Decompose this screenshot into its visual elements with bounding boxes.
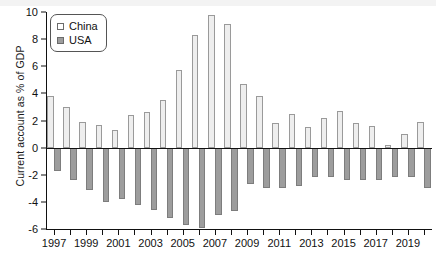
y-axis-tick — [41, 120, 46, 121]
x-axis-tick — [344, 230, 345, 235]
y-axis-tick-label: 0 — [14, 142, 38, 154]
x-axis-tick — [54, 230, 55, 235]
x-axis-tick-label: 2011 — [267, 237, 291, 249]
y-axis-tick-label: 6 — [14, 60, 38, 72]
x-axis-tick-label: 2009 — [235, 237, 259, 249]
x-axis-tick — [295, 230, 296, 235]
x-axis-tick — [311, 230, 312, 235]
bar-china — [144, 112, 150, 147]
x-axis-tick-label: 2003 — [138, 237, 162, 249]
x-axis-tick — [408, 230, 409, 235]
bar-usa — [135, 148, 141, 205]
bar-usa — [119, 148, 125, 200]
x-axis-tick — [215, 230, 216, 235]
y-axis-tick — [41, 39, 46, 40]
bar-usa — [215, 148, 221, 216]
y-axis-tick — [41, 93, 46, 94]
x-axis-tick-label: 2015 — [331, 237, 355, 249]
x-axis-tick-label: 2005 — [170, 237, 194, 249]
x-axis-tick — [199, 230, 200, 235]
bar-china — [128, 115, 134, 148]
x-axis-tick — [183, 230, 184, 235]
bar-china — [353, 123, 359, 147]
x-axis-tick — [118, 230, 119, 235]
bar-usa — [263, 148, 269, 189]
top-edge-band — [0, 0, 436, 6]
bar-usa — [392, 148, 398, 178]
x-axis-tick-label: 1999 — [74, 237, 98, 249]
usa-swatch-icon — [57, 37, 64, 44]
bar-china — [112, 130, 118, 148]
bar-china — [240, 84, 246, 148]
x-axis-tick — [151, 230, 152, 235]
y-axis-tick — [41, 66, 46, 67]
bar-usa — [344, 148, 350, 181]
bar-china — [176, 70, 182, 147]
x-axis-tick — [360, 230, 361, 235]
x-axis-tick — [263, 230, 264, 235]
bar-china — [337, 111, 343, 148]
bar-usa — [167, 148, 173, 219]
bar-usa — [279, 148, 285, 189]
y-axis-tick — [41, 201, 46, 202]
x-axis-tick — [167, 230, 168, 235]
bar-china — [208, 15, 214, 148]
y-axis-tick-label: 2 — [14, 115, 38, 127]
x-axis-tick — [134, 230, 135, 235]
bar-china — [96, 125, 102, 148]
bar-usa — [328, 148, 334, 178]
x-axis-tick-label: 1997 — [42, 237, 66, 249]
y-axis-tick-label: 8 — [14, 33, 38, 45]
bar-usa — [424, 148, 430, 189]
bar-usa — [183, 148, 189, 225]
y-axis-tick-label: -4 — [14, 196, 38, 208]
x-axis-tick — [70, 230, 71, 235]
x-axis-tick — [102, 230, 103, 235]
x-axis-tick — [86, 230, 87, 235]
x-axis-tick — [424, 230, 425, 235]
x-axis-tick-label: 2007 — [203, 237, 227, 249]
bar-usa — [199, 148, 205, 228]
bar-china — [417, 122, 423, 148]
y-axis-tick-label: 10 — [14, 6, 38, 18]
chart-legend: China USA — [50, 14, 107, 52]
chart-figure: Current account as % of GDP 1086420-2-4-… — [0, 0, 436, 267]
y-axis-tick-label: -2 — [14, 169, 38, 181]
bar-usa — [312, 148, 318, 178]
bar-usa — [296, 148, 302, 186]
x-axis-tick — [247, 230, 248, 235]
y-axis-tick — [41, 174, 46, 175]
x-axis-tick — [231, 230, 232, 235]
legend-label-usa: USA — [69, 35, 92, 46]
bar-china — [401, 134, 407, 148]
bar-usa — [151, 148, 157, 210]
x-axis-tick — [327, 230, 328, 235]
y-axis-tick-label: 4 — [14, 87, 38, 99]
x-axis-tick — [376, 230, 377, 235]
bar-china — [224, 24, 230, 147]
x-axis-tick-label: 2017 — [363, 237, 387, 249]
bar-china — [305, 127, 311, 147]
bar-china — [79, 122, 85, 148]
x-axis-tick-label: 2019 — [396, 237, 420, 249]
bar-china — [63, 107, 69, 148]
x-axis-tick-label: 2001 — [106, 237, 130, 249]
bar-usa — [103, 148, 109, 202]
bar-usa — [86, 148, 92, 190]
bar-china — [47, 96, 53, 148]
bar-china — [272, 123, 278, 147]
y-axis-tick — [41, 12, 46, 13]
x-axis-line — [46, 229, 432, 230]
bar-usa — [231, 148, 237, 212]
bar-usa — [247, 148, 253, 185]
legend-item-china: China — [57, 19, 98, 33]
zero-reference-line — [46, 148, 432, 149]
bar-china — [160, 100, 166, 147]
legend-label-china: China — [69, 21, 98, 32]
china-swatch-icon — [57, 23, 64, 30]
bar-usa — [408, 148, 414, 178]
y-axis-tick-label: -6 — [14, 223, 38, 235]
bar-china — [321, 118, 327, 148]
x-axis-tick — [392, 230, 393, 235]
bar-usa — [360, 148, 366, 181]
